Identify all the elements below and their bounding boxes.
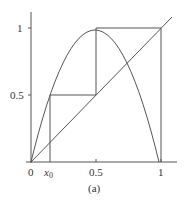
cobweb-path — [50, 28, 161, 162]
y-label-0.5: 0.5 — [10, 89, 24, 101]
x-label-x0: x0 — [43, 166, 53, 180]
y-label-1: 1 — [17, 22, 23, 34]
cobweb-diagram: 1 0.5 0 x0 0.5 1 (a) — [0, 0, 184, 202]
x-label-0: 0 — [28, 166, 34, 178]
x-label-1: 1 — [158, 166, 164, 178]
x-label-0.5: 0.5 — [89, 166, 103, 178]
figure-caption: (a) — [88, 182, 101, 195]
